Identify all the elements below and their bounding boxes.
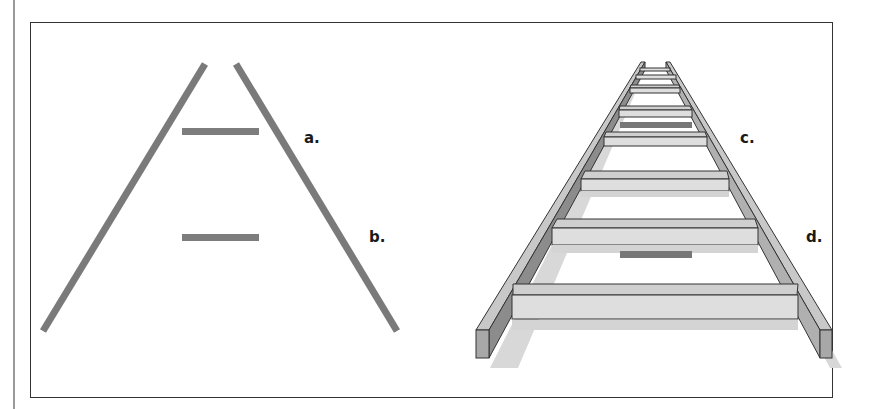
right-rail — [236, 64, 397, 331]
left-rail-end — [476, 330, 489, 358]
perspective-ladder — [476, 62, 842, 368]
highlight-bar-lower — [620, 251, 692, 258]
rung-8 — [640, 68, 670, 71]
label-c: c. — [740, 131, 755, 146]
rung-1 — [512, 284, 798, 330]
left-rail — [43, 64, 205, 331]
rung-6 — [630, 85, 680, 93]
flat-ladder — [43, 64, 397, 331]
highlight-bar-upper — [620, 122, 692, 128]
ladder-illustration — [0, 0, 878, 409]
right-rail-end — [820, 330, 832, 358]
rung-3 — [581, 171, 729, 197]
label-a: a. — [304, 131, 320, 146]
rung-upper — [182, 128, 259, 135]
rung-4 — [604, 132, 707, 146]
rung-2 — [552, 219, 758, 253]
rung-7 — [636, 75, 676, 79]
label-d: d. — [806, 230, 822, 245]
label-b: b. — [369, 230, 385, 245]
rung-5 — [619, 106, 692, 117]
rung-lower — [182, 234, 259, 241]
